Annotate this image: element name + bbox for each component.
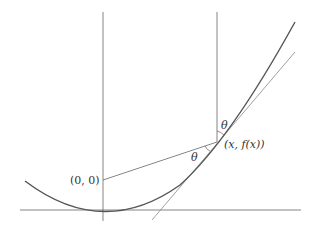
theta-left-label: θ — [191, 151, 198, 164]
parabola-curve — [25, 22, 295, 212]
focal-segment — [103, 142, 217, 180]
theta-top-label: θ — [221, 119, 228, 132]
reflection-diagram: θ θ (x, f(x)) (0, 0) — [0, 0, 315, 235]
origin-label: (0, 0) — [70, 174, 100, 187]
angle-arc-left — [205, 146, 210, 151]
point-label: (x, f(x)) — [224, 138, 265, 151]
